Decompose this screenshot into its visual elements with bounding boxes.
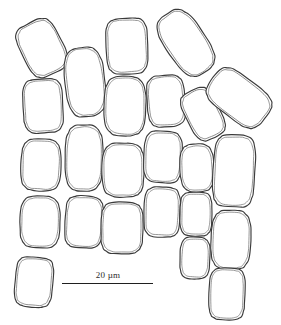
cell-c6-3 — [210, 209, 252, 271]
cell-c3-4 — [101, 202, 144, 255]
cell-wall-outer — [103, 76, 146, 137]
cell-c4-1 — [150, 3, 222, 83]
cell-c2-1 — [61, 45, 108, 118]
cell-c2-2 — [64, 124, 103, 191]
cell-c2-3 — [64, 195, 105, 249]
cell-wall-outer — [64, 124, 103, 191]
cell-wall-outer — [101, 202, 144, 255]
cell-chain — [101, 17, 149, 254]
cell-c1-2 — [22, 78, 65, 134]
scale-bar-line — [62, 283, 153, 284]
cell-c4-3 — [143, 130, 183, 183]
scale-bar-label: 20 µm — [58, 270, 158, 281]
cell-c4-4 — [143, 186, 181, 238]
cell-wall-outer — [105, 17, 149, 74]
cell-chain — [11, 14, 73, 309]
figure-root: 20 µm — [0, 0, 281, 325]
cell-c1-4 — [19, 196, 60, 249]
cell-wall-outer — [208, 267, 246, 320]
scale-bar: 20 µm — [58, 270, 158, 284]
cell-c3-1 — [105, 17, 149, 74]
bottom-caption-strip — [0, 315, 281, 325]
cell-wall-outer — [19, 196, 60, 249]
cell-wall-outer — [180, 192, 213, 237]
cell-c1-3 — [20, 138, 62, 192]
cell-wall-outer — [13, 255, 55, 308]
cell-c1-5 — [13, 255, 55, 308]
cell-c3-3 — [102, 143, 144, 197]
cell-c5-2 — [179, 143, 216, 193]
cell-c6-4 — [208, 267, 246, 320]
cell-wall-outer — [143, 186, 181, 238]
cell-c5-3 — [180, 192, 213, 237]
cell-c3-2 — [103, 76, 146, 137]
cell-c5-4 — [179, 236, 210, 279]
cell-wall-outer — [102, 143, 144, 197]
cell-chain — [200, 61, 278, 321]
cell-c6-2 — [211, 134, 257, 208]
